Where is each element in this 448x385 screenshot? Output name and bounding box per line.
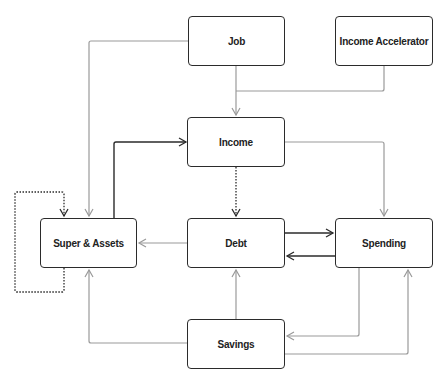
node-label: Income Accelerator	[340, 36, 429, 47]
node-savings: Savings	[187, 319, 285, 369]
edge-accelerator-income	[236, 66, 384, 91]
edge-savings-super	[89, 270, 187, 343]
node-super-assets: Super & Assets	[40, 218, 137, 268]
node-label: Savings	[218, 339, 255, 350]
node-label: Super & Assets	[53, 238, 124, 249]
node-label: Spending	[362, 238, 406, 249]
edge-income-spending	[285, 142, 384, 216]
node-label: Job	[228, 36, 245, 47]
node-label: Debt	[225, 238, 246, 249]
node-income-accelerator: Income Accelerator	[335, 16, 433, 66]
node-spending: Spending	[335, 218, 433, 268]
node-job: Job	[188, 16, 285, 66]
edge-super-income	[114, 142, 186, 218]
node-debt: Debt	[187, 218, 285, 268]
node-income: Income	[187, 117, 285, 167]
edge-savings-spending	[285, 270, 408, 354]
edge-job-super	[89, 41, 188, 216]
edge-spending-savings	[287, 268, 359, 336]
node-label: Income	[219, 137, 253, 148]
